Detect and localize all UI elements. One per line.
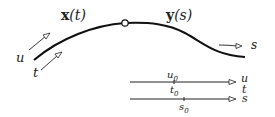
curve-x-of-t [34,23,125,60]
arrow-s-icon [219,44,242,49]
label-x-of-t: x(t) [61,8,86,22]
junction-circle-icon [122,20,128,26]
label-u0: u0 [167,70,178,83]
arrow-u-icon [29,33,50,50]
axis-u-t [130,80,236,85]
curve-y-of-s [125,23,245,57]
label-s-axis-end: s [242,93,248,104]
label-s0: s0 [179,102,189,115]
arrow-t-icon [41,52,62,70]
label-y-of-s: y(s) [166,8,192,22]
label-t0: t0 [170,85,179,98]
label-u: u [16,51,24,64]
label-s-right: s [251,39,257,51]
label-t: t [33,66,38,79]
diagram-canvas [0,0,275,117]
